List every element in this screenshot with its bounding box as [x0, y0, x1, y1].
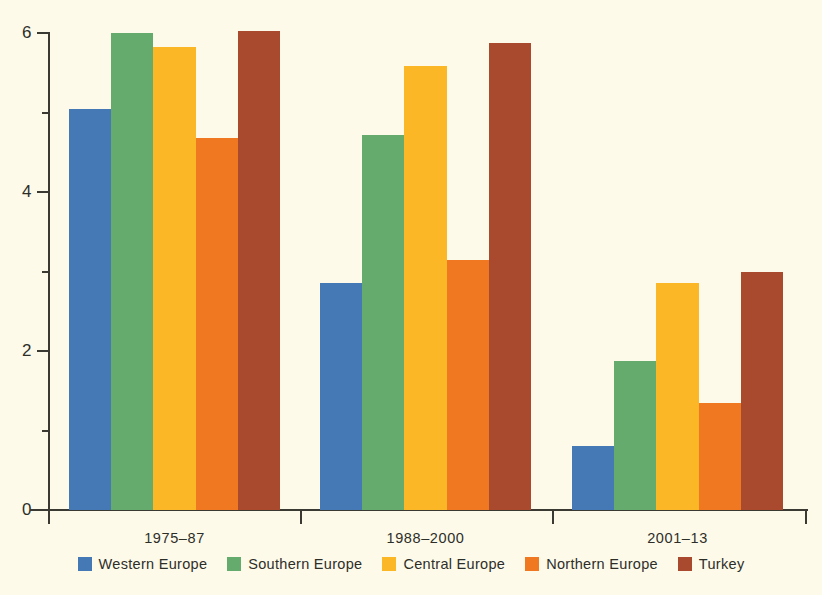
legend-swatch-icon — [382, 557, 396, 571]
legend-item-label: Central Europe — [403, 556, 505, 572]
legend-item[interactable]: Turkey — [678, 556, 745, 572]
x-axis-tick — [48, 511, 50, 524]
plot-area — [48, 28, 806, 510]
legend-item[interactable]: Western Europe — [78, 556, 208, 572]
bar — [741, 272, 783, 511]
chart-legend: Western EuropeSouthern EuropeCentral Eur… — [0, 556, 822, 572]
bar — [153, 47, 195, 510]
bar — [362, 135, 404, 510]
bar — [572, 446, 614, 510]
legend-item-label: Turkey — [699, 556, 745, 572]
bar — [447, 260, 489, 510]
bar — [656, 283, 698, 510]
legend-item-label: Western Europe — [99, 556, 208, 572]
legend-item[interactable]: Northern Europe — [525, 556, 658, 572]
x-axis-tick — [300, 511, 302, 524]
bar — [489, 43, 531, 510]
bar — [614, 361, 656, 510]
legend-swatch-icon — [525, 557, 539, 571]
x-axis-category-label: 1988–2000 — [387, 530, 465, 546]
bar — [196, 138, 238, 510]
legend-item-label: Northern Europe — [546, 556, 658, 572]
bar — [320, 283, 362, 510]
bar — [69, 109, 111, 510]
x-axis-category-label: 2001–13 — [647, 530, 708, 546]
legend-item-label: Southern Europe — [248, 556, 362, 572]
legend-item[interactable]: Southern Europe — [227, 556, 362, 572]
y-axis-tick-label: 2 — [22, 341, 32, 361]
x-axis-tick — [805, 511, 807, 524]
y-axis-tick-label: 6 — [22, 23, 32, 43]
legend-swatch-icon — [227, 557, 241, 571]
x-axis-category-label: 1975–87 — [144, 530, 205, 546]
y-axis-tick-label: 4 — [22, 182, 32, 202]
bar — [111, 33, 153, 510]
legend-item[interactable]: Central Europe — [382, 556, 505, 572]
y-axis: 0246 — [0, 0, 50, 595]
bar-chart: 0246 1975–871988–20002001–13 Western Eur… — [0, 0, 822, 595]
x-axis-tick — [552, 511, 554, 524]
bar — [699, 403, 741, 510]
legend-swatch-icon — [78, 557, 92, 571]
bar — [238, 31, 280, 510]
bar — [404, 66, 446, 510]
legend-swatch-icon — [678, 557, 692, 571]
